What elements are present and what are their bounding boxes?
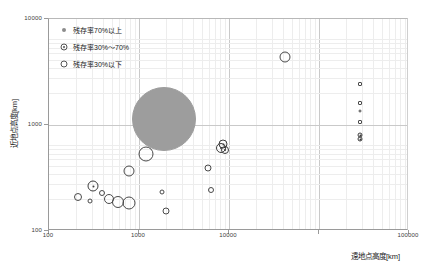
y-tick-mark <box>44 230 48 231</box>
filled-dot-icon <box>59 26 68 35</box>
gridline-x-minor <box>225 19 226 229</box>
gridline-x-minor <box>389 19 390 229</box>
gridline-x-minor <box>220 19 221 229</box>
bubble-point <box>208 187 214 193</box>
gridline-y-minor <box>49 159 407 160</box>
bubble-point <box>358 137 363 142</box>
gridline-x-minor <box>382 19 383 229</box>
gridline-x-minor <box>283 19 284 229</box>
gridline-x-minor <box>310 19 311 229</box>
gridline-x-minor <box>346 19 347 229</box>
bubble-point <box>358 101 362 105</box>
gridline-x-minor <box>315 19 316 229</box>
bubble-point <box>88 181 99 192</box>
bubble-point <box>280 52 291 63</box>
y-tick-label: 10000 <box>12 15 42 21</box>
gridline-y-minor <box>49 199 407 200</box>
legend-item: 残存率30%〜70% <box>59 42 129 52</box>
x-tick-label: 100000 <box>397 232 418 238</box>
legend-label: 残存率30%〜70% <box>73 42 129 52</box>
gridline-x-major <box>319 19 320 229</box>
bubble-point <box>132 87 196 151</box>
bubble-point <box>205 165 212 172</box>
gridline-y-major <box>49 125 407 126</box>
gridline-y-minor <box>49 166 407 167</box>
bubble-point <box>359 110 362 113</box>
legend-item: 残存率30%以下 <box>59 59 129 69</box>
bubble-point <box>139 147 154 162</box>
gridline-x-minor <box>202 19 203 229</box>
gridline-x-minor <box>373 19 374 229</box>
bubble-point <box>123 197 136 210</box>
bubble-point <box>358 82 362 86</box>
x-tick-label: 10000 <box>219 232 237 238</box>
gridline-x-major <box>229 19 230 229</box>
gridline-y-minor <box>49 93 407 94</box>
open-circle-icon <box>59 60 68 69</box>
gridline-y-minor <box>49 78 407 79</box>
bubble-point <box>358 120 362 124</box>
bubble-point <box>74 193 82 201</box>
bubble-point <box>124 166 135 177</box>
bubble-point <box>160 190 165 195</box>
bubble-point <box>221 146 229 154</box>
plot-area: 残存率70%以上 残存率30%〜70% 残存率30%以下 <box>48 18 408 230</box>
ring-dot-icon <box>59 43 68 52</box>
gridline-x-minor <box>209 19 210 229</box>
gridline-y-minor <box>49 154 407 155</box>
bubble-point <box>163 208 170 215</box>
legend-item: 残存率70%以上 <box>59 25 129 35</box>
x-axis-title: 遠地点高度[km] <box>351 250 400 261</box>
legend-label: 残存率30%以下 <box>73 59 122 69</box>
y-tick-mark <box>44 124 48 125</box>
gridline-x-minor <box>292 19 293 229</box>
legend: 残存率70%以上 残存率30%〜70% 残存率30%以下 <box>59 25 129 69</box>
gridline-x-minor <box>272 19 273 229</box>
gridline-x-minor <box>395 19 396 229</box>
y-axis-title: 近地点高度[km] <box>8 89 19 159</box>
y-tick-label: 100 <box>12 227 42 233</box>
gridline-x-minor <box>215 19 216 229</box>
x-tick-label: 1000 <box>131 232 145 238</box>
gridline-x-minor <box>400 19 401 229</box>
x-tick-label: 100 <box>43 232 54 238</box>
bubble-point <box>88 199 93 204</box>
gridline-y-minor <box>49 184 407 185</box>
x-tick-mark <box>318 230 319 234</box>
gridline-x-minor <box>305 19 306 229</box>
y-tick-mark <box>44 18 48 19</box>
gridline-x-minor <box>362 19 363 229</box>
bubble-chart: 残存率70%以上 残存率30%〜70% 残存率30%以下 100 1000 10… <box>0 0 430 267</box>
gridline-y-minor <box>49 174 407 175</box>
gridline-x-minor <box>405 19 406 229</box>
gridline-x-minor <box>256 19 257 229</box>
gridline-x-minor <box>299 19 300 229</box>
legend-label: 残存率70%以上 <box>73 25 122 35</box>
gridline-y-minor <box>49 145 407 146</box>
